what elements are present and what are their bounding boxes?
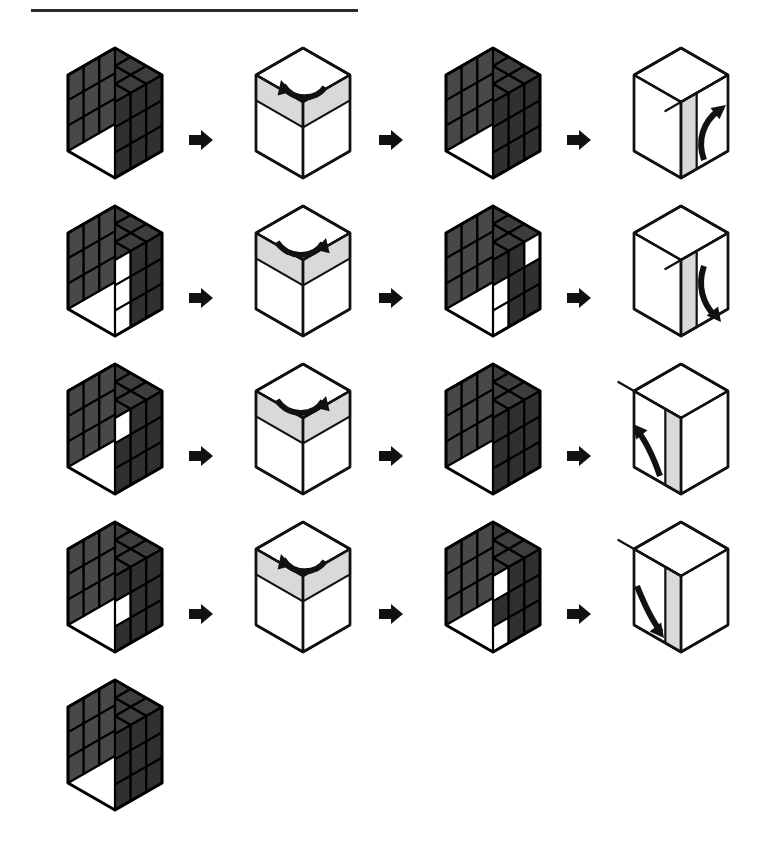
step-arrow-1a-glyph <box>188 128 214 152</box>
step-arrow-1b <box>378 128 408 158</box>
cube-state-3b <box>423 356 563 506</box>
cube-state-5a-left-face <box>68 680 115 783</box>
move-top-ccw-4 <box>233 514 373 664</box>
cube-state-1a <box>45 40 185 190</box>
cube-state-4b <box>423 514 563 664</box>
step-arrow-4c-glyph <box>566 602 592 626</box>
instruction-row-3 <box>0 356 763 506</box>
instruction-row-4 <box>0 514 763 664</box>
move-top-cw-3 <box>233 356 373 506</box>
step-arrow-2b-glyph <box>378 286 404 310</box>
move-left-up-3-band-face <box>665 409 681 494</box>
step-arrow-2a-glyph <box>188 286 214 310</box>
step-arrow-4c <box>566 602 596 632</box>
right-arrow-icon <box>189 130 213 150</box>
move-top-ccw-1 <box>233 40 373 190</box>
cube-state-2b-left-face <box>446 206 493 309</box>
cube-state-2a-left-face <box>68 206 115 309</box>
step-arrow-3a-glyph <box>188 444 214 468</box>
cube-state-4b <box>423 514 563 664</box>
cube-state-3b <box>423 356 563 506</box>
cube-state-5a <box>45 672 185 822</box>
cube-state-1b <box>423 40 563 190</box>
right-arrow-icon <box>567 446 591 466</box>
instruction-sheet <box>0 0 763 856</box>
step-arrow-3c-glyph <box>566 444 592 468</box>
step-arrow-4b-glyph <box>378 602 404 626</box>
step-arrow-3b <box>378 444 408 474</box>
right-arrow-icon <box>379 446 403 466</box>
cube-state-3b-left-face <box>446 364 493 467</box>
step-arrow-2c-glyph <box>566 286 592 310</box>
step-arrow-1a <box>188 128 218 158</box>
move-top-cw-2 <box>233 198 373 348</box>
cube-state-2b <box>423 198 563 348</box>
step-arrow-1b-glyph <box>378 128 404 152</box>
step-arrow-3a <box>188 444 218 474</box>
step-arrow-4a <box>188 602 218 632</box>
instruction-row-2 <box>0 198 763 348</box>
move-left-up-3 <box>611 356 751 506</box>
move-top-ccw-1 <box>233 40 373 190</box>
move-left-up-3 <box>611 356 751 506</box>
cube-state-1a <box>45 40 185 190</box>
cube-state-4a <box>45 514 185 664</box>
right-arrow-icon <box>379 130 403 150</box>
cube-state-3a <box>45 356 185 506</box>
right-arrow-icon <box>189 446 213 466</box>
step-arrow-2c <box>566 286 596 316</box>
step-arrow-1c-glyph <box>566 128 592 152</box>
right-arrow-icon <box>189 604 213 624</box>
move-top-ccw-4 <box>233 514 373 664</box>
right-arrow-icon <box>567 604 591 624</box>
cube-state-3a <box>45 356 185 506</box>
step-arrow-4b <box>378 602 408 632</box>
move-right-down-2 <box>611 198 751 348</box>
cube-state-4a-left-face <box>68 522 115 625</box>
instruction-row-1 <box>0 40 763 190</box>
move-right-up-1 <box>611 40 751 190</box>
move-left-down-4 <box>611 514 751 664</box>
right-arrow-icon <box>379 288 403 308</box>
step-arrow-1c <box>566 128 596 158</box>
cube-state-4a <box>45 514 185 664</box>
move-left-down-4 <box>611 514 751 664</box>
cube-state-1b-left-face <box>446 48 493 151</box>
cube-state-4b-left-face <box>446 522 493 625</box>
right-arrow-icon <box>567 130 591 150</box>
right-arrow-icon <box>567 288 591 308</box>
cube-state-2b <box>423 198 563 348</box>
move-right-down-2 <box>611 198 751 348</box>
step-arrow-3b-glyph <box>378 444 404 468</box>
cube-state-2a <box>45 198 185 348</box>
right-arrow-icon <box>379 604 403 624</box>
top-rule <box>31 9 358 12</box>
step-arrow-2a <box>188 286 218 316</box>
instruction-row-5 <box>0 672 763 822</box>
move-right-up-1-band-face <box>681 93 697 178</box>
step-arrow-3c <box>566 444 596 474</box>
move-right-down-2-band-face <box>681 251 697 336</box>
cube-state-2a <box>45 198 185 348</box>
right-arrow-icon <box>189 288 213 308</box>
step-arrow-2b <box>378 286 408 316</box>
cube-state-5a <box>45 672 185 822</box>
cube-state-1b <box>423 40 563 190</box>
step-arrow-4a-glyph <box>188 602 214 626</box>
cube-state-3a-left-face <box>68 364 115 467</box>
move-right-up-1 <box>611 40 751 190</box>
move-left-down-4-band-face <box>665 567 681 652</box>
move-top-cw-3 <box>233 356 373 506</box>
move-top-cw-2 <box>233 198 373 348</box>
cube-state-1a-left-face <box>68 48 115 151</box>
